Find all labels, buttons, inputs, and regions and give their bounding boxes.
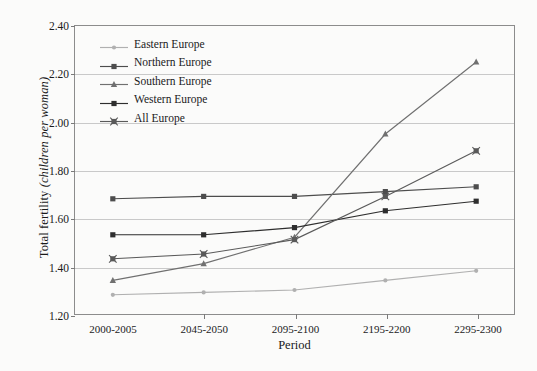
y-tick-label: 1.20 — [29, 310, 69, 322]
data-point-square — [292, 225, 297, 230]
legend-item-southern-europe[interactable]: Southern Europe — [99, 75, 212, 88]
legend-marker-dot-icon — [99, 39, 129, 50]
x-tick-label: 2000-2005 — [89, 323, 137, 335]
y-tick-label: 2.00 — [29, 117, 69, 129]
legend-label: All Europe — [134, 113, 185, 125]
x-tick-mark — [296, 314, 297, 319]
fertility-line-chart: Total fertility (children per woman) 1.2… — [0, 0, 537, 371]
legend-marker-cross-square-icon — [99, 113, 129, 124]
legend-item-all-europe[interactable]: All Europe — [99, 112, 212, 125]
legend-item-northern-europe[interactable]: Northern Europe — [99, 57, 212, 70]
x-tick-label: 2095-2100 — [272, 323, 320, 335]
series-eastern-europe — [111, 269, 479, 297]
data-point-square — [201, 232, 206, 237]
y-tick-mark — [71, 316, 75, 317]
data-point-triangle — [473, 59, 479, 65]
data-point-dot — [111, 293, 115, 297]
data-point-square — [201, 194, 206, 199]
legend-marker-triangle-icon — [99, 76, 129, 87]
series-line — [113, 151, 476, 259]
legend-label: Northern Europe — [134, 57, 212, 69]
series-all-europe — [109, 147, 480, 263]
x-tick-mark — [387, 314, 388, 319]
data-point-dot — [112, 45, 116, 49]
data-point-dot — [474, 269, 478, 273]
legend-label: Southern Europe — [134, 76, 212, 88]
data-point-dot — [383, 278, 387, 282]
series-western-europe — [110, 199, 479, 238]
x-tick-label: 2045-2050 — [180, 323, 228, 335]
x-tick-mark — [478, 314, 479, 319]
data-point-square — [474, 184, 479, 189]
data-point-cross-square — [472, 147, 480, 155]
x-tick-label: 2295-2300 — [454, 323, 502, 335]
data-point-square — [110, 232, 115, 237]
y-tick-label: 2.20 — [29, 68, 69, 80]
data-point-square — [383, 189, 388, 194]
data-point-square — [292, 194, 297, 199]
data-point-square — [383, 208, 388, 213]
legend-marker-square-icon — [99, 95, 129, 106]
x-axis-title: Period — [74, 338, 515, 353]
legend-label: Eastern Europe — [134, 39, 205, 51]
chart-legend: Eastern EuropeNorthern EuropeSouthern Eu… — [99, 38, 212, 125]
y-tick-label: 1.40 — [29, 262, 69, 274]
legend-item-western-europe[interactable]: Western Europe — [99, 94, 212, 107]
legend-item-eastern-europe[interactable]: Eastern Europe — [99, 38, 212, 51]
y-tick-label: 1.60 — [29, 213, 69, 225]
data-point-dot — [292, 288, 296, 292]
y-tick-label: 1.80 — [29, 165, 69, 177]
legend-label: Western Europe — [134, 94, 207, 106]
data-point-dot — [202, 290, 206, 294]
data-point-square — [111, 100, 116, 105]
legend-marker-square-icon — [99, 58, 129, 69]
y-tick-label: 2.40 — [29, 20, 69, 32]
data-point-square — [110, 196, 115, 201]
series-northern-europe — [110, 184, 479, 201]
x-tick-mark — [204, 314, 205, 319]
x-tick-label: 2195-2200 — [363, 323, 411, 335]
data-point-square — [111, 63, 116, 68]
plot-area: 1.201.401.601.802.002.202.40 2000-200520… — [74, 25, 515, 315]
data-point-square — [474, 199, 479, 204]
